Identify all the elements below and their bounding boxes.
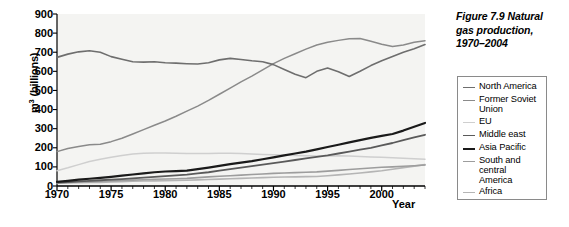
legend-line-swatch-icon bbox=[463, 97, 475, 106]
x-tick-label: 1990 bbox=[250, 188, 296, 200]
caption-line-3: 1970–2004 bbox=[456, 37, 564, 51]
legend-item[interactable]: South and central America bbox=[463, 155, 543, 186]
caption-line-1: Figure 7.9 Natural bbox=[456, 10, 564, 24]
legend-line-swatch-icon bbox=[463, 84, 475, 93]
figure-caption: Figure 7.9 Natural gas production, 1970–… bbox=[456, 10, 564, 51]
legend-item-label: Middle east bbox=[479, 129, 525, 139]
legend-item-label: South and central America bbox=[479, 155, 521, 186]
x-tick-label: 1985 bbox=[196, 188, 242, 200]
figure-container: m3 (billions) 01002003004005006007008009… bbox=[0, 0, 569, 227]
plot-background bbox=[57, 14, 425, 186]
legend-line-swatch-icon bbox=[463, 158, 475, 167]
legend-item-label: EU bbox=[479, 116, 492, 126]
x-tick-label: 1980 bbox=[142, 188, 188, 200]
x-axis-title: Year bbox=[392, 198, 415, 210]
chart-area: m3 (billions) 01002003004005006007008009… bbox=[0, 0, 435, 227]
legend-item[interactable]: Middle east bbox=[463, 129, 543, 141]
y-tick-label: 400 bbox=[19, 104, 53, 115]
legend-item[interactable]: North America bbox=[463, 81, 543, 93]
y-tick-label: 700 bbox=[19, 47, 53, 58]
legend-item-label: Former Soviet Union bbox=[479, 94, 536, 115]
x-tick-label: 1995 bbox=[305, 188, 351, 200]
y-tick-label: 800 bbox=[19, 28, 53, 39]
legend-item[interactable]: EU bbox=[463, 116, 543, 128]
x-tick-label: 1975 bbox=[88, 188, 134, 200]
chart-legend: North AmericaFormer Soviet UnionEUMiddle… bbox=[457, 76, 547, 200]
y-tick-label: 500 bbox=[19, 85, 53, 96]
x-tick-label: 1970 bbox=[34, 188, 80, 200]
legend-line-swatch-icon bbox=[463, 189, 475, 198]
legend-item[interactable]: Africa bbox=[463, 186, 543, 198]
legend-line-swatch-icon bbox=[463, 119, 475, 128]
legend-item-label: Africa bbox=[479, 186, 502, 196]
y-tick-label: 300 bbox=[19, 123, 53, 134]
y-tick-label: 900 bbox=[19, 9, 53, 20]
y-tick-label: 100 bbox=[19, 161, 53, 172]
legend-line-swatch-icon bbox=[463, 145, 475, 154]
y-tick-label: 200 bbox=[19, 142, 53, 153]
legend-line-swatch-icon bbox=[463, 132, 475, 141]
y-tick-label: 600 bbox=[19, 66, 53, 77]
legend-item-label: North America bbox=[479, 81, 537, 91]
legend-item[interactable]: Asia Pacific bbox=[463, 142, 543, 154]
legend-item-label: Asia Pacific bbox=[479, 142, 526, 152]
legend-item[interactable]: Former Soviet Union bbox=[463, 94, 543, 115]
caption-line-2: gas production, bbox=[456, 24, 564, 38]
x-axis-tick-labels: 1970197519801985199019952000 bbox=[0, 188, 435, 208]
